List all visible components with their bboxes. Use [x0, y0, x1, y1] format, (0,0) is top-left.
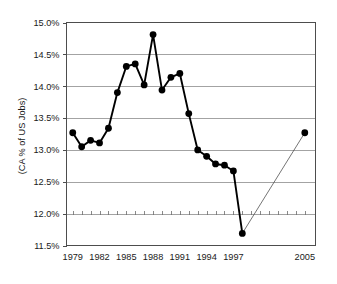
- data-point-marker: [96, 140, 103, 147]
- y-axis-tick-labels: 11.5%12.0%12.5%13.0%13.5%14.0%14.5%15.0%: [33, 18, 59, 251]
- data-point-marker: [168, 74, 175, 81]
- y-tick-label: 13.5%: [33, 113, 59, 123]
- y-tick-label: 11.5%: [34, 241, 59, 251]
- data-point-marker: [150, 31, 157, 38]
- x-tick-label: 1991: [170, 252, 190, 262]
- y-axis-title: (CA % of US Jobs): [17, 98, 27, 175]
- data-point-marker: [123, 63, 130, 70]
- y-tick-label: 13.0%: [33, 145, 59, 155]
- series-line: [73, 35, 243, 234]
- projection-line-group: [242, 133, 304, 234]
- data-point-marker: [78, 143, 85, 150]
- data-point-marker: [141, 82, 148, 89]
- line-chart: 11.5%12.0%12.5%13.0%13.5%14.0%14.5%15.0%…: [0, 0, 337, 284]
- data-point-marker: [176, 70, 183, 77]
- data-point-marker: [221, 162, 228, 169]
- x-tick-label: 1997: [223, 252, 243, 262]
- data-point-marker: [159, 87, 166, 94]
- data-point-marker: [69, 129, 76, 136]
- y-tick-label: 12.0%: [33, 209, 59, 219]
- data-point-marker: [301, 129, 308, 136]
- x-tick-label: 1982: [89, 252, 109, 262]
- data-point-marker: [203, 153, 210, 160]
- y-tick-label: 15.0%: [33, 18, 59, 28]
- data-point-marker: [114, 89, 121, 96]
- x-axis-tick-labels: 19791982198519881991199419972005: [63, 252, 315, 262]
- x-tick-label: 1985: [116, 252, 136, 262]
- data-point-marker: [239, 230, 246, 237]
- x-tick-label: 1988: [143, 252, 163, 262]
- data-point-marker: [212, 161, 219, 168]
- x-tick-label: 1994: [196, 252, 216, 262]
- data-point-marker: [194, 147, 201, 154]
- y-tick-label: 14.5%: [33, 50, 59, 60]
- projection-line: [242, 133, 304, 234]
- data-point-marker: [105, 125, 112, 132]
- x-tick-label: 1979: [63, 252, 83, 262]
- data-point-marker: [185, 110, 192, 117]
- data-point-marker: [230, 168, 237, 175]
- series-line-group: [73, 35, 243, 234]
- data-point-marker: [87, 137, 94, 144]
- chart-container: 11.5%12.0%12.5%13.0%13.5%14.0%14.5%15.0%…: [0, 0, 337, 284]
- y-tick-label: 12.5%: [33, 177, 59, 187]
- x-tick-label: 2005: [295, 252, 315, 262]
- minor-x-ticks-group: [74, 211, 306, 215]
- y-tick-label: 14.0%: [33, 82, 59, 92]
- y-tick-marks-group: [63, 24, 67, 247]
- data-point-marker: [132, 61, 139, 68]
